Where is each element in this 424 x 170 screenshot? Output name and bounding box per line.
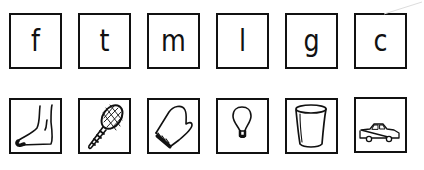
letter-t: t: [84, 21, 126, 61]
letter-m: m: [153, 21, 195, 61]
letter-box-m[interactable]: m: [147, 13, 200, 69]
letter-box-l[interactable]: l: [216, 13, 269, 69]
scan-streak-decoration: [364, 0, 424, 30]
picture-box-lightbulb[interactable]: [216, 98, 269, 154]
tennis-racket-icon: [80, 100, 129, 152]
picture-box-racket[interactable]: [78, 98, 131, 154]
picture-box-foot[interactable]: [9, 98, 62, 154]
lightbulb-icon: [218, 100, 267, 152]
letter-g: g: [291, 21, 333, 61]
mitten-icon: [149, 100, 198, 152]
letter-f: f: [15, 21, 57, 61]
car-icon: [356, 99, 405, 151]
can-icon: [287, 100, 336, 152]
picture-box-can[interactable]: [285, 98, 338, 154]
picture-box-car[interactable]: [354, 97, 407, 153]
letter-box-g[interactable]: g: [285, 13, 338, 69]
letter-box-f[interactable]: f: [9, 13, 62, 69]
foot-icon: [11, 100, 60, 152]
letter-box-t[interactable]: t: [78, 13, 131, 69]
letter-l: l: [222, 21, 264, 61]
picture-box-mitten[interactable]: [147, 98, 200, 154]
